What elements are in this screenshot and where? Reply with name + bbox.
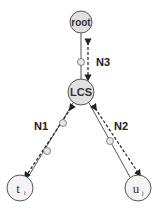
- node-ti: t i: [7, 175, 33, 201]
- node-root-label: root: [71, 17, 91, 28]
- intermediate-node-icon: [44, 148, 51, 155]
- node-lcs: LCS: [68, 79, 94, 105]
- node-uj-subscript: j: [141, 190, 144, 196]
- arrow-n2: [95, 108, 139, 174]
- intermediate-node-icon: [78, 59, 85, 66]
- edge-label-n3: N3: [96, 56, 110, 68]
- diagram-canvas: root LCS t i u j N3 N1 N2: [0, 0, 158, 223]
- edge-label-n1: N1: [34, 120, 48, 132]
- edge-label-n2: N2: [114, 120, 128, 132]
- arrow-n1: [26, 108, 71, 176]
- node-ti-label: t: [16, 181, 20, 196]
- node-lcs-label: LCS: [70, 86, 92, 98]
- intermediate-node-icon: [107, 138, 114, 145]
- node-uj: u j: [125, 175, 151, 201]
- intermediate-node-icon: [60, 120, 67, 127]
- node-uj-label: u: [133, 181, 140, 196]
- node-root: root: [70, 11, 92, 33]
